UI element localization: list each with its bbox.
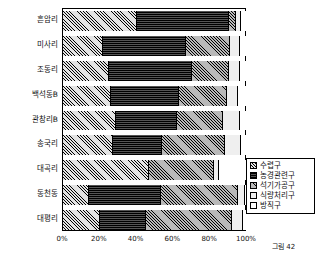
legend-label: 식량처리구 xyxy=(260,192,295,200)
bar-segment-방직구 xyxy=(238,86,247,106)
dark-solid-swatch xyxy=(250,172,257,179)
legend-item: 식량처리구 xyxy=(250,192,310,200)
vertical-light-hatch-swatch xyxy=(250,192,257,199)
legend-label: 농경관련구 xyxy=(260,172,295,180)
bar-segment-수렵구 xyxy=(63,185,89,205)
bar-segment-석기가공구 xyxy=(161,185,238,205)
bar-segment-석기가공구 xyxy=(177,111,223,131)
x-tick-label: 40% xyxy=(122,236,150,243)
legend-label: 수렵구 xyxy=(260,162,281,170)
x-tick-label: 100% xyxy=(232,236,260,243)
category-label: 백석동B xyxy=(2,91,58,99)
bar-segment-수렵구 xyxy=(63,160,149,180)
x-tick-label: 20% xyxy=(85,236,113,243)
bar-segment-수렵구 xyxy=(63,210,100,230)
legend: 수렵구농경관련구석기가공구식량처리구방직구 xyxy=(246,158,315,214)
bar-segment-농경관련구 xyxy=(89,185,161,205)
bar-segment-수렵구 xyxy=(63,86,111,106)
bar-segment-석기가공구 xyxy=(229,11,236,31)
category-label: 대평리 xyxy=(2,215,58,223)
bar-segment-농경관련구 xyxy=(103,36,186,56)
legend-item: 석기가공구 xyxy=(250,182,310,190)
plot-area xyxy=(62,8,246,231)
category-label: 흔암리 xyxy=(2,16,58,24)
legend-item: 농경관련구 xyxy=(250,172,310,180)
bar-segment-석기가공구 xyxy=(146,210,232,230)
bar-segment-농경관련구 xyxy=(111,86,179,106)
bar-segment-방직구 xyxy=(240,36,247,56)
legend-label: 방직구 xyxy=(260,202,281,210)
bar-segment-수렵구 xyxy=(63,11,137,31)
category-label: 미사리 xyxy=(2,41,58,49)
bar-row xyxy=(63,210,245,230)
bar-segment-수렵구 xyxy=(63,36,103,56)
bar-segment-식량처리구 xyxy=(223,111,240,131)
bar-segment-석기가공구 xyxy=(192,61,229,81)
x-tick-label: 60% xyxy=(158,236,186,243)
bar-row xyxy=(63,86,245,106)
bar-segment-농경관련구 xyxy=(100,210,146,230)
bar-segment-식량처리구 xyxy=(225,135,242,155)
diagonal-gray-hatch-swatch xyxy=(250,182,257,189)
bar-row xyxy=(63,61,245,81)
bar-segment-농경관련구 xyxy=(113,135,163,155)
bar-segment-농경관련구 xyxy=(116,111,177,131)
legend-item: 방직구 xyxy=(250,202,310,210)
bar-segment-농경관련구 xyxy=(109,61,192,81)
category-label: 관창리B xyxy=(2,116,58,124)
bar-row xyxy=(63,160,245,180)
bar-segment-식량처리구 xyxy=(227,86,238,106)
category-label: 대곡리 xyxy=(2,165,58,173)
category-label: 동천동 xyxy=(2,190,58,198)
category-label: 조동리 xyxy=(2,66,58,74)
bar-segment-식량처리구 xyxy=(238,185,245,205)
x-tick-label: 0% xyxy=(48,236,76,243)
bar-row xyxy=(63,36,245,56)
figure-caption: 그림 42 xyxy=(272,241,295,251)
bar-segment-식량처리구 xyxy=(229,61,240,81)
bar-segment-방직구 xyxy=(240,61,247,81)
bar-segment-수렵구 xyxy=(63,111,116,131)
figure-container: 흔암리미사리조동리백석동B관창리B송국리대곡리동천동대평리 0%20%40%60… xyxy=(0,0,317,256)
bar-segment-석기가공구 xyxy=(186,36,230,56)
x-tick-label: 80% xyxy=(195,236,223,243)
bar-segment-방직구 xyxy=(241,135,247,155)
bar-segment-식량처리구 xyxy=(232,210,243,230)
bar-segment-석기가공구 xyxy=(149,160,213,180)
bar-row xyxy=(63,111,245,131)
bar-segment-방직구 xyxy=(219,160,247,180)
category-label: 송국리 xyxy=(2,140,58,148)
bar-row xyxy=(63,135,245,155)
bar-segment-석기가공구 xyxy=(162,135,225,155)
bar-segment-식량처리구 xyxy=(230,36,239,56)
bar-segment-농경관련구 xyxy=(137,11,229,31)
bar-segment-수렵구 xyxy=(63,61,109,81)
white-empty-swatch xyxy=(250,202,257,209)
bar-row xyxy=(63,185,245,205)
diagonal-light-hatch-swatch xyxy=(250,162,257,169)
bar-row xyxy=(63,11,245,31)
bar-segment-방직구 xyxy=(240,111,247,131)
legend-label: 석기가공구 xyxy=(260,182,295,190)
bar-segment-석기가공구 xyxy=(179,86,227,106)
bar-segment-수렵구 xyxy=(63,135,113,155)
bar-segment-방직구 xyxy=(241,11,247,31)
legend-item: 수렵구 xyxy=(250,162,310,170)
